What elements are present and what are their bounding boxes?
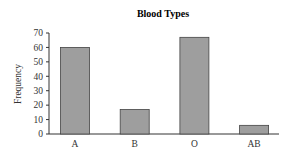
- x-category-label: A: [72, 139, 79, 149]
- x-category-label: O: [191, 139, 198, 149]
- y-tick-label: 0: [38, 129, 43, 139]
- y-axis: 010203040506070: [34, 28, 50, 139]
- x-axis: ABOAB: [49, 134, 279, 149]
- y-tick-label: 40: [34, 72, 44, 82]
- y-axis-label: Frequency: [13, 64, 23, 104]
- y-tick-label: 10: [34, 115, 44, 125]
- bar-a: [61, 47, 90, 134]
- bars: [61, 37, 269, 134]
- x-category-label: AB: [247, 139, 260, 149]
- y-tick-label: 20: [34, 100, 44, 110]
- bar-ab: [240, 125, 269, 134]
- bar-o: [180, 37, 209, 134]
- y-tick-label: 30: [34, 86, 44, 96]
- y-tick-label: 70: [34, 28, 44, 38]
- bar-chart: Blood Types Frequency 010203040506070 AB…: [0, 0, 287, 159]
- x-category-label: B: [132, 139, 138, 149]
- chart-title: Blood Types: [137, 8, 189, 19]
- y-tick-label: 60: [34, 43, 44, 53]
- y-tick-label: 50: [34, 57, 44, 67]
- bar-b: [120, 109, 149, 134]
